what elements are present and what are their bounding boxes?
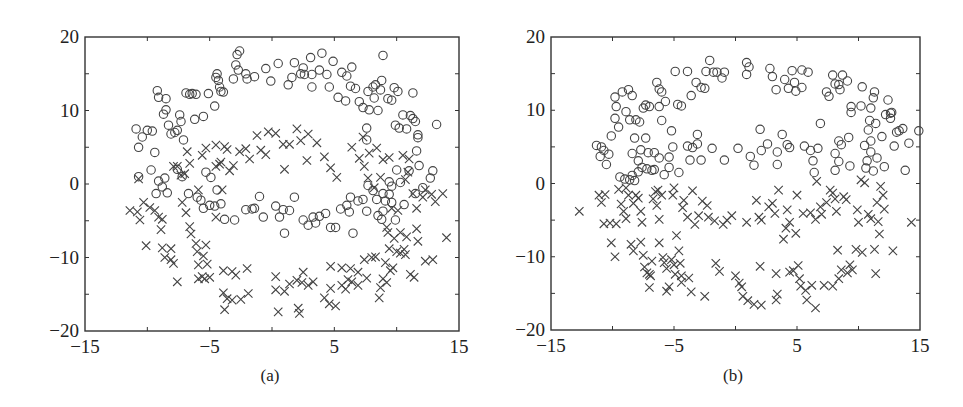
circle-marker: [364, 181, 372, 189]
circle-marker: [768, 72, 776, 80]
circle-marker: [602, 160, 610, 168]
cross-marker: [742, 218, 750, 226]
cross-marker: [237, 295, 245, 303]
cross-marker: [157, 225, 165, 233]
cross-marker: [617, 200, 625, 208]
circle-marker: [611, 114, 619, 122]
circle-marker: [326, 223, 334, 231]
cross-marker: [662, 287, 670, 295]
cross-marker: [820, 281, 828, 289]
cross-marker: [243, 264, 251, 272]
cross-marker: [691, 220, 699, 228]
circle-marker: [778, 130, 786, 138]
cross-marker: [389, 264, 397, 272]
circle-marker: [867, 104, 875, 112]
cross-marker: [680, 196, 688, 204]
cross-marker: [194, 261, 202, 269]
circle-marker: [878, 132, 886, 140]
cross-marker: [419, 193, 427, 201]
cross-marker: [808, 281, 816, 289]
cross-marker: [376, 283, 384, 291]
cross-marker: [390, 234, 398, 242]
cross-marker: [672, 231, 680, 239]
circle-marker: [179, 136, 187, 144]
cross-marker: [829, 282, 837, 290]
cross-marker: [728, 212, 736, 220]
data-markers: [126, 47, 451, 318]
cross-marker: [244, 289, 252, 297]
cross-marker: [627, 240, 635, 248]
cross-marker: [229, 161, 237, 169]
cross-marker: [783, 206, 791, 214]
cross-marker: [639, 251, 648, 259]
circle-marker: [255, 192, 263, 200]
circle-marker: [163, 189, 171, 197]
cross-marker: [622, 215, 630, 223]
circle-marker: [665, 163, 673, 171]
circle-marker: [341, 97, 349, 105]
cross-marker: [701, 292, 710, 300]
cross-marker: [385, 245, 393, 253]
cross-marker: [375, 294, 383, 302]
cross-marker: [412, 204, 420, 212]
cross-marker: [297, 136, 305, 144]
cross-marker: [126, 206, 134, 214]
x-tick-label: −5: [200, 336, 220, 357]
cross-marker: [671, 270, 679, 278]
circle-marker: [614, 123, 622, 131]
circle-marker: [409, 89, 417, 97]
circle-marker: [611, 93, 619, 101]
cross-marker: [402, 233, 410, 241]
cross-marker: [822, 198, 830, 206]
cross-marker: [193, 247, 201, 255]
cross-marker: [676, 259, 685, 267]
cross-marker: [326, 262, 334, 270]
circle-marker: [616, 173, 624, 181]
circle-marker: [220, 215, 228, 223]
circle-marker: [290, 193, 298, 201]
cross-marker: [139, 198, 147, 206]
cross-marker: [715, 267, 723, 275]
circle-marker: [655, 154, 663, 162]
cross-marker: [146, 203, 154, 211]
cross-marker: [842, 195, 850, 203]
circle-marker: [164, 121, 172, 129]
circle-marker: [329, 57, 337, 65]
circle-marker: [363, 124, 371, 132]
circle-marker: [412, 147, 420, 155]
cross-marker: [325, 300, 333, 308]
circle-marker: [655, 102, 663, 110]
cross-marker: [811, 215, 819, 223]
cross-marker: [612, 220, 620, 228]
circle-marker: [810, 168, 818, 176]
circle-marker: [829, 71, 837, 79]
circle-marker: [213, 186, 221, 194]
circle-marker: [184, 189, 192, 197]
circle-marker: [667, 127, 675, 135]
cross-marker: [264, 128, 272, 136]
circle-marker: [790, 78, 798, 86]
cross-marker: [178, 198, 186, 206]
circle-marker: [798, 83, 806, 91]
scatter-panel-a: −20−1001020 −15−5515 (a): [49, 26, 468, 385]
circle-marker: [370, 94, 378, 102]
cross-marker: [363, 274, 371, 282]
cross-marker: [757, 216, 765, 224]
circle-marker: [242, 70, 250, 78]
cross-marker: [795, 275, 803, 283]
cross-marker: [864, 210, 872, 218]
circle-marker: [134, 143, 142, 151]
cross-marker: [872, 269, 880, 277]
circle-marker: [325, 83, 333, 91]
cross-marker: [365, 149, 373, 157]
circle-marker: [391, 216, 399, 224]
circle-marker: [864, 126, 872, 134]
cross-marker: [622, 184, 630, 192]
circle-marker: [191, 115, 199, 123]
cross-marker: [874, 217, 882, 225]
cross-marker: [774, 186, 783, 194]
circle-marker: [846, 162, 854, 170]
cross-marker: [133, 208, 141, 216]
cross-marker: [379, 156, 387, 164]
cross-marker: [232, 271, 240, 279]
